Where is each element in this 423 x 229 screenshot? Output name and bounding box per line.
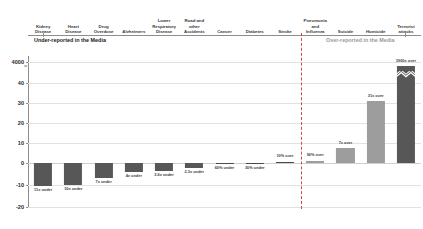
category-label: Drug Overdose [88,24,118,34]
bar[interactable] [276,162,294,163]
y-tick-label: -20 [0,204,24,210]
bar[interactable] [306,161,324,163]
top-axis-tick [405,33,406,37]
bar-slot[interactable]: 7x under [88,62,118,207]
bar-value-label: 11x under [34,188,52,193]
bar-series: 11x under 10x under 7x under 4x under 3.… [28,62,421,207]
bar-slot[interactable]: 30% under [240,62,270,207]
bar-value-label: 10% over [276,154,293,159]
bar-slot[interactable]: 7x over [330,62,360,207]
over-reported-caption: Over-reported in the Media [326,37,395,44]
category-label: Cancer [209,29,239,34]
section-divider [301,33,302,209]
y-tick-label: 30 [0,100,24,106]
category-label: Lower Respiratory Disease [149,18,179,34]
category-header-strip: Kidney Disease Heart Disease Drug Overdo… [28,4,421,34]
bar-value-label: 3900x over [396,59,416,64]
bar[interactable] [34,163,52,186]
y-tick-label: 0 [0,160,24,166]
bar[interactable] [155,163,173,171]
y-tick-label: -10 [0,182,24,188]
bar-slot[interactable]: 3900x over [391,62,421,207]
category-label: Homicide [361,29,391,34]
bar-value-label: 60% under [215,166,235,171]
bar[interactable] [367,101,385,163]
bar[interactable] [125,163,143,172]
category-label: Pneumonia and Influenza [300,18,330,34]
under-reported-caption: Under-reported in the Media [34,37,106,44]
bar-value-label: 31x over [368,94,384,99]
bar[interactable] [95,163,113,178]
category-label: Diabetes [240,29,270,34]
bar-slot[interactable]: 10% over [270,62,300,207]
y-tick-label: 20 [0,120,24,126]
bar[interactable] [397,66,415,163]
category-label: Heart Disease [58,24,88,34]
bar-value-label: 7x under [95,180,111,185]
bar-slot[interactable]: 3.6x under [149,62,179,207]
bar[interactable] [336,148,354,163]
gridline [28,207,421,208]
axis-break-zigzag-icon [396,71,415,79]
bar-slot[interactable]: 4x under [119,62,149,207]
y-tick-label: 4000 [0,59,24,65]
bar[interactable] [64,163,82,185]
bar-value-label: 90% over [307,153,324,158]
category-label: Alzheimers [119,29,149,34]
y-tick-label: 40 [0,80,24,86]
category-label: Road and other Accidents [179,18,209,34]
bar-slot[interactable]: 10x under [58,62,88,207]
bar[interactable] [215,163,233,164]
chart-root: Kidney Disease Heart Disease Drug Overdo… [0,0,423,229]
bar-slot[interactable]: 90% over [300,62,330,207]
bar-value-label: 7x over [339,141,353,146]
bar-value-label: 10x under [64,187,82,192]
bar-value-label: 2.3x under [185,170,204,175]
top-axis-rule [28,35,421,36]
bar-slot[interactable]: 11x under [28,62,58,207]
bar-value-label: 4x under [126,174,142,179]
y-tick-label: 10 [0,140,24,146]
bar-slot[interactable]: 31x over [361,62,391,207]
bar-value-label: 30% under [245,166,265,171]
bar[interactable] [185,163,203,168]
bar-slot[interactable]: 2.3x under [179,62,209,207]
category-label: Stroke [270,29,300,34]
category-label: Suicide [330,29,360,34]
bar-value-label: 3.6x under [154,173,173,178]
bar[interactable] [246,163,264,164]
bar-slot[interactable]: 60% under [209,62,239,207]
